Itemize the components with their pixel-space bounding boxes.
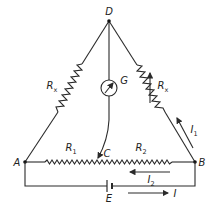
r2-sub: 2	[142, 148, 146, 156]
wire-left-a	[25, 112, 58, 162]
left-resistor-label: Rx	[47, 81, 58, 94]
wire-d-left	[82, 21, 109, 64]
r1-label: R1	[65, 143, 76, 156]
left-resistor-symbol: R	[47, 80, 54, 91]
wire-d-right	[109, 21, 137, 65]
right-resistor-sub: x	[165, 86, 169, 94]
node-a-label: A	[14, 158, 21, 168]
slide-wire-resistor	[45, 160, 172, 164]
node-d-dot	[107, 19, 111, 23]
node-d-label: D	[105, 7, 113, 17]
current-i1-label: I1	[190, 125, 197, 138]
bridge-circuit-diagram: D A B C E G Rx Rx R1 R2 I1 I2 I	[0, 0, 215, 215]
wire-a-battery	[25, 162, 107, 186]
circuit-drawing	[0, 0, 215, 215]
node-b-label: B	[199, 158, 206, 168]
r1-sub: 1	[72, 148, 76, 156]
right-resistor-symbol: R	[158, 80, 165, 91]
galvanometer-label: G	[120, 76, 128, 86]
r2-label: R2	[135, 143, 146, 156]
r1-symbol: R	[65, 142, 72, 153]
galvanometer-needle-icon	[105, 83, 113, 93]
left-resistor	[56, 64, 82, 112]
battery-e-label: E	[106, 194, 112, 204]
node-c-label: C	[104, 149, 111, 159]
i2-sub: 2	[150, 180, 154, 188]
current-i-label: I	[174, 189, 177, 199]
right-resistor-label: Rx	[158, 81, 169, 94]
i1-sub: 1	[193, 130, 197, 138]
current-i2-label: I2	[147, 175, 154, 188]
r2-symbol: R	[135, 142, 142, 153]
left-resistor-sub: x	[54, 86, 58, 94]
